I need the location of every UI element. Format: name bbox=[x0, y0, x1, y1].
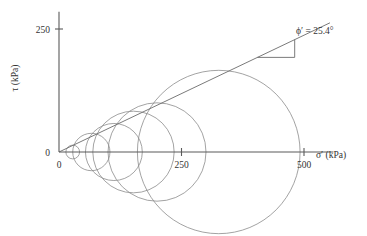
y-axis-label: τ (kPa) bbox=[10, 65, 21, 92]
friction-angle-annotation: ϕ′ = 25.4° bbox=[296, 26, 334, 36]
chart-canvas: 02505000250 σ′ (kPa) τ (kPa) ϕ′ = 25.4° bbox=[0, 0, 367, 236]
y-tick-label: 250 bbox=[36, 25, 51, 35]
x-tick-label: 0 bbox=[57, 160, 62, 170]
failure-envelope-line bbox=[59, 23, 330, 152]
axis-ticks-group bbox=[55, 29, 304, 156]
x-axis-label: σ′ (kPa) bbox=[316, 150, 346, 161]
y-tick-label: 0 bbox=[45, 148, 50, 158]
x-tick-label: 500 bbox=[297, 160, 312, 170]
mohr-circle-chart: 02505000250 σ′ (kPa) τ (kPa) ϕ′ = 25.4° bbox=[0, 0, 367, 236]
x-tick-label: 250 bbox=[174, 160, 189, 170]
